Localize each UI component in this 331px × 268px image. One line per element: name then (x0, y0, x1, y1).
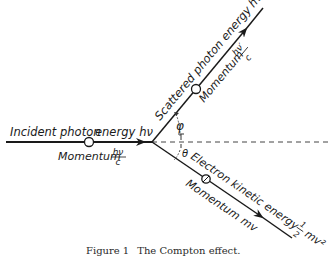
compton-diagram: φ θ Incident photon energyhν Momentum hν… (0, 0, 331, 268)
svg-text:mv²: mv² (302, 228, 328, 251)
incident-photon-label: Incident photon (10, 125, 100, 139)
scattered-photon-path (152, 8, 263, 142)
svg-text:Momentum: Momentum (58, 150, 121, 163)
angle-theta-indicator: θ (174, 144, 188, 160)
angle-theta-label: θ (182, 148, 188, 159)
svg-text:hν: hν (113, 147, 124, 157)
angle-phi-indicator: φ (174, 112, 184, 140)
electron-path (152, 142, 292, 238)
svg-text:c: c (116, 157, 121, 167)
incident-energy-label: energyhν (95, 125, 154, 139)
incident-momentum-label: Momentum hν c (58, 147, 126, 167)
figure-caption: Figure 1The Compton effect. (86, 245, 240, 256)
svg-text:c: c (243, 53, 254, 63)
angle-phi-label: φ (176, 119, 184, 133)
